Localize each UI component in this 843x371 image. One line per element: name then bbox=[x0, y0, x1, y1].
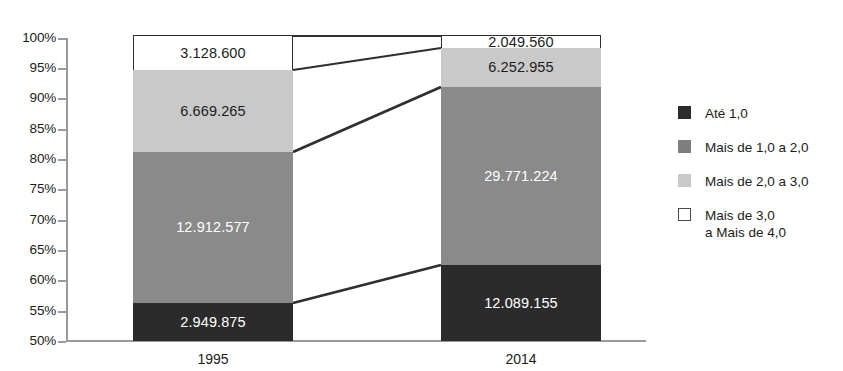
x-axis-label-2014: 2014 bbox=[441, 352, 601, 367]
connector-line-light-mid bbox=[293, 87, 441, 152]
bar-segment-value-label: 3.128.600 bbox=[180, 46, 245, 61]
legend-swatch-icon bbox=[678, 208, 691, 221]
bar-1995-segment-mais-de-1-0-a-2-0[interactable]: 12.912.577 bbox=[133, 152, 293, 303]
legend-item-ate-1-0[interactable]: Até 1,0 bbox=[678, 105, 838, 122]
y-axis-tick-mark bbox=[58, 280, 66, 282]
y-axis-tick-label: 80% bbox=[4, 152, 56, 166]
y-axis-tick-mark bbox=[58, 129, 66, 131]
y-axis-tick-label: 60% bbox=[4, 273, 56, 287]
y-axis-tick-label: 95% bbox=[4, 61, 56, 75]
bar-1995-segment-mais-de-3-0[interactable]: 3.128.600 bbox=[133, 35, 293, 71]
y-axis-tick-mark bbox=[58, 189, 66, 191]
bar-segment-value-label: 12.089.155 bbox=[484, 296, 558, 311]
connector-line-white-light bbox=[293, 48, 441, 70]
legend-item-label: Mais de 1,0 a 2,0 bbox=[705, 139, 809, 156]
bar-segment-value-label: 2.949.875 bbox=[180, 315, 245, 330]
y-axis-line bbox=[66, 38, 68, 342]
y-tick-group-90: 90% bbox=[0, 91, 56, 105]
y-tick-group-60: 60% bbox=[0, 273, 56, 287]
y-axis-tick-label: 50% bbox=[4, 334, 56, 348]
bar-segment-value-label: 12.912.577 bbox=[176, 220, 250, 235]
legend-item-mais-de-3-0-a-mais-de-4-0[interactable]: Mais de 3,0 a Mais de 4,0 bbox=[678, 207, 838, 241]
y-axis-tick-mark bbox=[58, 38, 66, 40]
y-axis-tick-mark bbox=[58, 220, 66, 222]
stacked-bar-chart: 100% 95% 90% 85% 80% 75% 70% 65% 60% 55%… bbox=[0, 0, 843, 371]
y-tick-group-55: 55% bbox=[0, 304, 56, 318]
y-axis-tick-mark bbox=[58, 250, 66, 252]
y-axis-tick-label: 55% bbox=[4, 304, 56, 318]
connector-line-mid-dark bbox=[293, 265, 441, 303]
y-axis-tick-label: 70% bbox=[4, 213, 56, 227]
legend-item-mais-de-2-0-a-3-0[interactable]: Mais de 2,0 a 3,0 bbox=[678, 173, 838, 190]
bar-2014-segment-mais-de-3-0[interactable]: 2.049.560 bbox=[441, 35, 601, 49]
chart-legend: Até 1,0 Mais de 1,0 a 2,0 Mais de 2,0 a … bbox=[678, 105, 838, 258]
y-tick-group-70: 70% bbox=[0, 213, 56, 227]
legend-item-label: Mais de 2,0 a 3,0 bbox=[705, 173, 809, 190]
legend-swatch-icon bbox=[678, 174, 691, 187]
legend-item-label: Até 1,0 bbox=[705, 105, 748, 122]
bar-segment-value-label: 29.771.224 bbox=[484, 169, 558, 184]
y-tick-group-95: 95% bbox=[0, 61, 56, 75]
y-axis-tick-mark bbox=[58, 311, 66, 313]
bar-segment-value-label: 6.669.265 bbox=[180, 104, 245, 119]
y-tick-group-50: 50% bbox=[0, 334, 56, 348]
y-axis-tick-mark bbox=[58, 68, 66, 70]
y-tick-group-100: 100% bbox=[0, 31, 56, 45]
legend-swatch-icon bbox=[678, 106, 691, 119]
bar-1995-segment-mais-de-2-0-a-3-0[interactable]: 6.669.265 bbox=[133, 70, 293, 152]
y-axis-tick-label: 90% bbox=[4, 91, 56, 105]
y-axis-tick-label: 100% bbox=[4, 31, 56, 45]
y-tick-group-65: 65% bbox=[0, 243, 56, 257]
bar-segment-value-label: 6.252.955 bbox=[488, 60, 553, 75]
y-tick-group-85: 85% bbox=[0, 122, 56, 136]
y-axis-tick-mark bbox=[58, 98, 66, 100]
x-axis-label-1995: 1995 bbox=[133, 352, 293, 367]
legend-item-mais-de-1-0-a-2-0[interactable]: Mais de 1,0 a 2,0 bbox=[678, 139, 838, 156]
bar-1995-segment-ate-1-0[interactable]: 2.949.875 bbox=[133, 303, 293, 341]
y-axis-tick-label: 85% bbox=[4, 122, 56, 136]
y-axis-tick-mark bbox=[58, 159, 66, 161]
legend-swatch-icon bbox=[678, 140, 691, 153]
y-tick-group-75: 75% bbox=[0, 182, 56, 196]
bar-2014-segment-mais-de-1-0-a-2-0[interactable]: 29.771.224 bbox=[441, 87, 601, 265]
y-axis-tick-label: 65% bbox=[4, 243, 56, 257]
y-tick-group-80: 80% bbox=[0, 152, 56, 166]
bar-2014-segment-ate-1-0[interactable]: 12.089.155 bbox=[441, 265, 601, 341]
y-axis-tick-mark bbox=[58, 341, 66, 343]
bar-2014-segment-mais-de-2-0-a-3-0[interactable]: 6.252.955 bbox=[441, 48, 601, 87]
legend-item-label: Mais de 3,0 a Mais de 4,0 bbox=[705, 207, 786, 241]
y-axis-tick-label: 75% bbox=[4, 182, 56, 196]
